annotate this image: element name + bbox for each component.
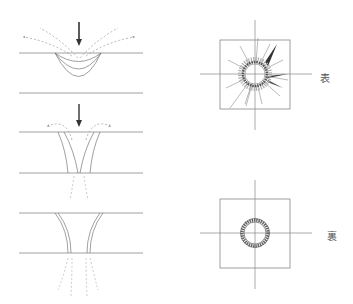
impact-arrow-icon [76, 22, 82, 46]
back-view-label: 裏 [327, 228, 337, 243]
impact-arrow-icon [76, 104, 82, 127]
diagram-canvas [0, 0, 353, 304]
cross-section-stage-2 [19, 104, 143, 200]
back-view [200, 180, 312, 289]
front-view-label: 表 [320, 70, 330, 85]
cross-section-stage-1 [19, 22, 143, 93]
cross-section-stage-3 [19, 213, 143, 296]
front-view [200, 20, 312, 130]
